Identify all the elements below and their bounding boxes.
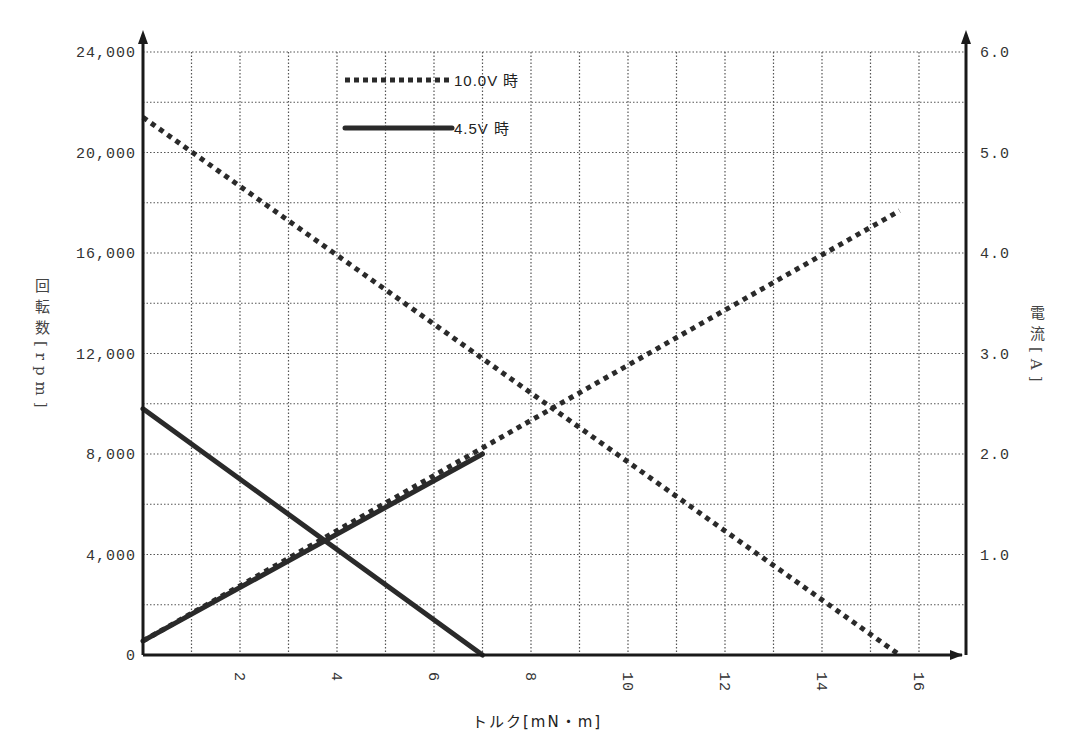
y-axis-title-rpm: 回転数[rpm]: [33, 278, 48, 414]
grid-lines: [143, 52, 966, 655]
data-series: [143, 117, 900, 655]
motor-characteristic-chart: 04,0008,00012,00016,00020,00024,0001.02.…: [0, 0, 1083, 750]
y2-tick-label: 6.0: [980, 45, 1010, 62]
x-axis-title-torque: トルク[mN・m]: [472, 710, 602, 731]
axes: [138, 30, 971, 660]
y-tick-label: 0: [126, 648, 136, 665]
x-tick-label: 8: [521, 672, 538, 682]
y2-tick-label: 2.0: [980, 447, 1010, 464]
legend: 10.0V 時4.5V 時: [345, 72, 519, 137]
y-tick-label: 24,000: [76, 45, 136, 62]
y-tick-label: 4,000: [86, 548, 136, 565]
y2-tick-label: 4.0: [980, 246, 1010, 263]
x-tick-label: 14: [812, 672, 829, 692]
x-tick-label: 4: [327, 672, 344, 682]
x-tick-label: 10: [618, 672, 635, 692]
arrow-up-icon: [961, 30, 971, 44]
series-line: [143, 409, 483, 655]
arrow-right-icon: [950, 650, 963, 660]
x-tick-label: 12: [715, 672, 732, 692]
y2-tick-label: 5.0: [980, 146, 1010, 163]
legend-label: 10.0V 時: [454, 72, 519, 89]
y-tick-label: 16,000: [76, 246, 136, 263]
x-tick-label: 2: [230, 672, 247, 682]
arrow-up-icon: [138, 30, 148, 44]
y2-tick-label: 3.0: [980, 347, 1010, 364]
legend-label: 4.5V 時: [454, 120, 510, 137]
x-tick-label: 6: [424, 672, 441, 682]
y-tick-label: 20,000: [76, 146, 136, 163]
x-tick-label: 16: [909, 672, 926, 692]
y-tick-label: 8,000: [86, 447, 136, 464]
y2-axis-title-current: 電流[A]: [1028, 305, 1043, 388]
y2-tick-label: 1.0: [980, 548, 1010, 565]
series-line: [143, 454, 483, 641]
y-tick-label: 12,000: [76, 347, 136, 364]
